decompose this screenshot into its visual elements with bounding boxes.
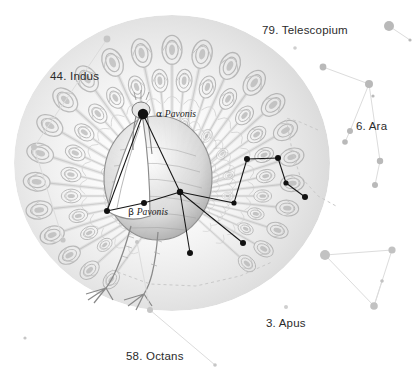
bright-star-marker bbox=[187, 250, 193, 256]
faint-star-marker bbox=[31, 144, 37, 150]
faint-star-marker bbox=[213, 363, 217, 367]
star-name: Pavonis bbox=[165, 109, 196, 119]
faint-star-marker bbox=[377, 158, 383, 164]
constellation-label-indus: 44. Indus bbox=[50, 70, 99, 82]
constellation-label-octans: 58. Octans bbox=[126, 350, 184, 362]
constellation-line bbox=[325, 255, 374, 306]
faint-star-marker bbox=[408, 38, 411, 41]
constellation-line bbox=[180, 192, 243, 243]
constellation-line bbox=[144, 192, 180, 203]
faint-star-marker bbox=[372, 182, 378, 188]
constellation-line bbox=[374, 281, 382, 306]
constellation-label-telescopium: 79. Telescopium bbox=[262, 24, 348, 36]
constellation-line bbox=[107, 114, 143, 211]
faint-star-marker bbox=[365, 80, 373, 88]
faint-star-marker bbox=[347, 128, 353, 134]
faint-star-marker bbox=[380, 279, 384, 283]
faint-star-marker bbox=[135, 240, 139, 244]
bright-star-marker bbox=[283, 180, 288, 185]
constellation-label-apus: 3. Apus bbox=[266, 317, 306, 329]
constellation-line bbox=[323, 67, 369, 84]
bright-star-marker bbox=[275, 155, 281, 161]
constellation-line bbox=[375, 161, 380, 185]
star-name: Pavonis bbox=[137, 207, 168, 217]
star-label-beta-pavonis: β Pavonis bbox=[128, 206, 168, 217]
star-label-alpha-pavonis: α Pavonis bbox=[156, 108, 196, 119]
constellation-line bbox=[325, 250, 392, 255]
constellation-boundary bbox=[112, 262, 272, 286]
constellation-overlay bbox=[0, 0, 420, 387]
faint-star-marker bbox=[371, 94, 374, 97]
faint-star-marker bbox=[320, 64, 327, 71]
constellation-line bbox=[143, 114, 180, 192]
bright-star-marker bbox=[138, 109, 148, 119]
faint-star-marker bbox=[60, 237, 65, 242]
faint-star-marker bbox=[370, 302, 378, 310]
constellation-line bbox=[180, 192, 234, 203]
bright-star-marker bbox=[104, 208, 110, 214]
bright-star-marker bbox=[231, 200, 236, 205]
constellation-line bbox=[180, 192, 190, 253]
constellation-line bbox=[137, 242, 150, 310]
constellation-label-ara: 6. Ara bbox=[356, 120, 387, 132]
faint-star-marker bbox=[293, 46, 297, 50]
constellation-boundary bbox=[286, 118, 336, 206]
faint-star-marker bbox=[384, 21, 394, 31]
faint-star-marker bbox=[320, 250, 330, 260]
bright-star-marker bbox=[177, 189, 183, 195]
bright-star-marker bbox=[240, 240, 246, 246]
constellation-line bbox=[286, 183, 305, 197]
bright-star-marker bbox=[244, 156, 250, 162]
faint-star-marker bbox=[388, 246, 395, 253]
constellation-line bbox=[34, 39, 107, 147]
faint-star-marker bbox=[147, 307, 153, 313]
constellation-line bbox=[234, 159, 247, 203]
constellation-line bbox=[247, 158, 278, 159]
star-atlas-plate: 79. Telescopium44. Indus6. Ara3. Apus58.… bbox=[0, 0, 420, 387]
faint-star-marker bbox=[104, 36, 111, 43]
faint-star-marker bbox=[284, 305, 288, 309]
constellation-line bbox=[278, 158, 286, 183]
faint-star-marker bbox=[23, 336, 26, 339]
greek-letter: β bbox=[128, 206, 134, 217]
faint-star-marker bbox=[342, 139, 348, 145]
constellation-line bbox=[34, 147, 63, 240]
bright-star-marker bbox=[302, 194, 308, 200]
greek-letter: α bbox=[156, 108, 162, 119]
